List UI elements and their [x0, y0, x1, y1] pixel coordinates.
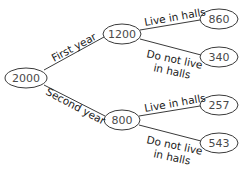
node-first-year: 1200 — [103, 24, 141, 44]
leaf-value: 543 — [209, 137, 230, 150]
node-second-year: 800 — [104, 110, 140, 130]
edge-label-second-year: Second year — [44, 85, 108, 127]
node-first-year-live-in-halls: 860 — [200, 9, 238, 29]
node-second-year-value: 800 — [112, 114, 133, 127]
tree-diagram: 2000 1200 800 860 340 257 543 First year… — [0, 0, 250, 172]
leaf-value: 257 — [209, 99, 230, 112]
node-second-year-live-in-halls: 257 — [200, 95, 238, 115]
node-first-year-value: 1200 — [108, 28, 136, 41]
leaf-value: 860 — [209, 13, 230, 26]
edge-label-first-year: First year — [49, 30, 98, 64]
node-second-year-not-in-halls: 543 — [200, 133, 238, 153]
node-root: 2000 — [5, 68, 47, 88]
node-root-value: 2000 — [12, 72, 40, 85]
leaf-value: 340 — [209, 51, 230, 64]
node-first-year-not-in-halls: 340 — [200, 47, 238, 67]
